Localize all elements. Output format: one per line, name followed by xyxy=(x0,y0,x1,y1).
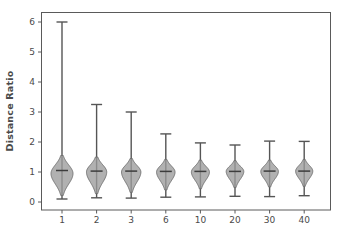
axes-frame xyxy=(42,13,331,211)
y-tick-label: 3 xyxy=(29,107,35,117)
y-tick-label: 1 xyxy=(29,167,35,177)
y-tick-label: 6 xyxy=(29,17,35,27)
x-tick-label: 6 xyxy=(163,215,169,225)
y-axis-label-text: Distance Ratio xyxy=(4,70,15,151)
y-axis-label: Distance Ratio xyxy=(4,70,15,151)
y-tick-label: 4 xyxy=(29,77,35,87)
x-tick-label: 3 xyxy=(128,215,134,225)
violin-plot-figure: 0123456 123610203040 Distance Ratio xyxy=(0,0,347,236)
x-tick-label: 30 xyxy=(264,215,276,225)
x-tick-label: 20 xyxy=(229,215,241,225)
y-tick-label: 2 xyxy=(29,137,35,147)
x-tick-label: 1 xyxy=(59,215,65,225)
chart-canvas: 0123456 123610203040 Distance Ratio xyxy=(0,0,347,236)
y-tick-label: 0 xyxy=(29,197,35,207)
x-tick-label: 40 xyxy=(298,215,310,225)
y-tick-label: 5 xyxy=(29,47,35,57)
y-axis-ticks: 0123456 xyxy=(29,17,41,207)
x-tick-label: 10 xyxy=(195,215,207,225)
x-axis-ticks: 123610203040 xyxy=(59,210,310,225)
x-tick-label: 2 xyxy=(94,215,100,225)
